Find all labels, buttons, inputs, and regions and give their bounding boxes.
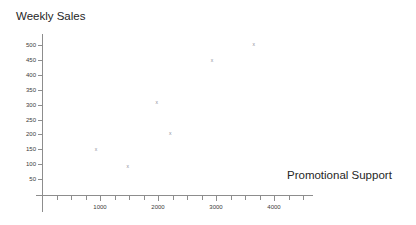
plot-area: 50100150200250300350400450500 1000200030…	[0, 0, 416, 225]
y-tick-label: 500	[11, 42, 36, 48]
x-tick-label: 4000	[254, 204, 294, 210]
y-tick-label-text: 150	[14, 146, 36, 152]
scatter-chart-screenshot: Weekly Sales 501001502002503003504004505…	[0, 0, 416, 225]
y-tick-label: 350	[11, 87, 36, 93]
y-tick	[38, 75, 42, 76]
x-axis-title: Promotional Support	[287, 169, 392, 181]
y-tick	[38, 164, 42, 165]
y-tick-label-text: 250	[14, 117, 36, 123]
y-tick	[38, 120, 42, 121]
x-tick	[260, 196, 261, 200]
y-tick	[38, 90, 42, 91]
x-tick	[42, 196, 43, 201]
y-tick-label-text: 450	[14, 57, 36, 63]
y-tick	[38, 149, 42, 150]
x-tick	[129, 196, 130, 200]
x-tick	[289, 196, 290, 200]
x-tick	[231, 196, 232, 200]
x-tick	[57, 196, 58, 200]
x-tick	[245, 196, 246, 200]
y-tick-label: 50	[11, 176, 36, 182]
y-tick-label-text: 400	[14, 72, 36, 78]
y-tick-label-text: 300	[14, 102, 36, 108]
x-tick	[216, 196, 217, 201]
y-tick-label: 300	[11, 102, 36, 108]
y-tick-label: 100	[11, 161, 36, 167]
x-tick	[86, 196, 87, 200]
y-tick	[38, 105, 42, 106]
x-tick-label: 1000	[80, 204, 120, 210]
x-tick	[144, 196, 145, 200]
y-tick-label: 450	[11, 57, 36, 63]
y-tick-label: 150	[11, 146, 36, 152]
x-tick	[187, 196, 188, 200]
y-tick	[38, 134, 42, 135]
x-tick	[303, 196, 304, 200]
y-tick-label-text: 100	[14, 161, 36, 167]
y-tick	[38, 45, 42, 46]
y-axis-line	[42, 34, 43, 212]
data-point-marker: x	[93, 146, 98, 152]
x-tick	[100, 196, 101, 201]
x-tick-label: 2000	[138, 204, 178, 210]
x-tick-label: 3000	[196, 204, 236, 210]
y-tick-label: 400	[11, 72, 36, 78]
x-tick	[71, 196, 72, 200]
data-point-marker: x	[209, 57, 214, 63]
x-tick	[173, 196, 174, 200]
y-tick-label: 200	[11, 131, 36, 137]
data-point-marker: x	[251, 41, 256, 47]
y-tick	[38, 179, 42, 180]
y-tick-label: 250	[11, 117, 36, 123]
data-point-marker: x	[125, 163, 130, 169]
x-tick	[115, 196, 116, 200]
y-tick-label-text: 50	[14, 176, 36, 182]
y-tick-label-text: 200	[14, 131, 36, 137]
data-point-marker: x	[168, 130, 173, 136]
data-point-marker: x	[154, 99, 159, 105]
x-tick	[202, 196, 203, 200]
y-tick-label-text: 500	[14, 42, 36, 48]
x-axis-line	[36, 195, 313, 196]
y-tick	[38, 60, 42, 61]
x-tick	[158, 196, 159, 201]
x-tick	[274, 196, 275, 201]
y-tick-label-text: 350	[14, 87, 36, 93]
